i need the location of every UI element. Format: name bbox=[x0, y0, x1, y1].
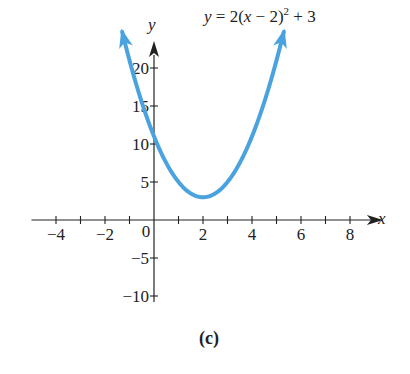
x-tick-label: 2 bbox=[199, 225, 208, 244]
x-tick-label: 8 bbox=[346, 225, 355, 244]
x-tick-label: −4 bbox=[47, 225, 66, 244]
y-tick-label: 10 bbox=[132, 135, 149, 154]
y-tick-label: 5 bbox=[141, 173, 150, 192]
y-axis-arrow-icon bbox=[149, 41, 159, 57]
y-tick-label: −5 bbox=[131, 249, 149, 268]
y-axis-label: y bbox=[146, 15, 156, 34]
x-axis-label: x bbox=[377, 209, 386, 228]
origin-label: 0 bbox=[142, 222, 151, 241]
eq-part-3: − 2) bbox=[251, 7, 283, 26]
ticks bbox=[56, 68, 350, 296]
figure-caption: (c) bbox=[199, 328, 219, 349]
eq-y: y bbox=[202, 7, 212, 26]
equation-label: y = 2(x − 2)2 + 3 bbox=[202, 5, 316, 26]
x-tick-label: 6 bbox=[297, 225, 306, 244]
parabola-chart: −4−224680−10−55101520 y = 2(x − 2)2 + 3 … bbox=[0, 0, 410, 374]
tick-labels: −4−224680−10−55101520 bbox=[47, 59, 354, 306]
y-tick-label: −10 bbox=[122, 287, 149, 306]
x-tick-label: 4 bbox=[248, 225, 257, 244]
eq-part-5: + 3 bbox=[289, 7, 316, 26]
eq-part-1: = 2( bbox=[212, 7, 245, 26]
x-tick-label: −2 bbox=[96, 225, 114, 244]
curve-layer bbox=[119, 29, 287, 197]
axes bbox=[32, 41, 383, 302]
